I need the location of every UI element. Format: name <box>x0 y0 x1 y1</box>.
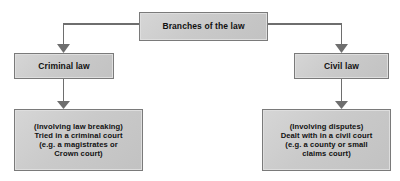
node-civil-law: Civil law <box>294 53 389 79</box>
arrowhead-civil-to-detail-icon <box>335 101 348 109</box>
node-criminal-law-detail: (Involving law breaking) Tried in a crim… <box>14 109 143 171</box>
node-criminal-law-detail-label: (Involving law breaking) Tried in a crim… <box>18 122 139 159</box>
node-criminal-law: Criminal law <box>14 53 114 79</box>
node-civil-law-detail: (Involving disputes) Dealt with in a civ… <box>262 109 391 171</box>
law-branches-flowchart: Branches of the law Criminal law Civil l… <box>0 0 400 181</box>
node-criminal-law-label: Criminal law <box>15 61 113 71</box>
arrowhead-root-to-civil-icon <box>335 44 348 53</box>
connector-root-to-civil <box>268 24 342 44</box>
node-branches-of-the-law-label: Branches of the law <box>140 21 267 31</box>
connector-root-to-criminal <box>64 24 140 44</box>
node-branches-of-the-law: Branches of the law <box>139 12 268 41</box>
arrowhead-root-to-criminal-icon <box>57 44 70 53</box>
node-civil-law-label: Civil law <box>295 61 388 71</box>
node-civil-law-detail-label: (Involving disputes) Dealt with in a civ… <box>266 122 387 159</box>
arrowhead-criminal-to-detail-icon <box>57 101 70 109</box>
